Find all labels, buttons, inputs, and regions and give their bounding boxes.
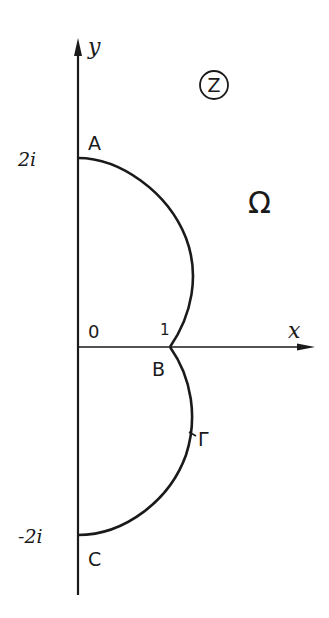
point-label-b: B [152, 358, 165, 380]
origin-label: 0 [88, 321, 99, 342]
x-axis-label: x [288, 318, 301, 343]
x-tick-label-1: 1 [160, 321, 170, 339]
point-label-a: A [88, 132, 101, 154]
region-label-omega: Ω [248, 185, 271, 220]
point-label-c: C [88, 548, 101, 570]
x-axis-arrow-icon [297, 344, 315, 351]
contour-lower-arc [78, 347, 192, 535]
curve-label-gamma: Γ [198, 428, 209, 450]
y-axis-arrow-icon [74, 38, 82, 56]
y-tick-label-2i: 2i [17, 148, 36, 170]
contour-upper-arc [78, 158, 193, 347]
complex-plane-diagram: y x 0 1 2i -2i A B C Γ Z Ω [0, 0, 329, 618]
plane-label-z: Z [207, 74, 220, 96]
y-axis-label: y [87, 34, 101, 59]
y-tick-label-neg-2i: -2i [18, 525, 43, 547]
